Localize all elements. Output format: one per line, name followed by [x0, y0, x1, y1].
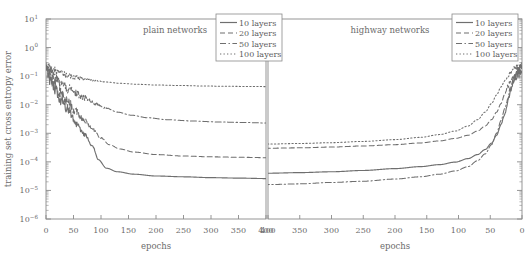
legend-right-label: 10 layers	[475, 19, 512, 28]
legend-left-label: 20 layers	[239, 29, 276, 38]
x-right-label: 200	[387, 226, 402, 235]
x-right-label: 250	[356, 226, 371, 235]
x-right-label: 150	[419, 226, 434, 235]
series-line-20-layers	[268, 65, 522, 148]
x-left-label: 200	[148, 226, 163, 235]
y-axis-label: training set cross entropy error	[3, 50, 13, 187]
x-left-label: 100	[93, 226, 108, 235]
y-tick-label: 10−1	[20, 71, 38, 81]
y-tick-label: 10−2	[20, 99, 39, 109]
y-tick-label: 10−6	[20, 214, 39, 224]
legend-left-label: 100 layers	[239, 50, 281, 59]
series-line-50-layers	[268, 63, 522, 184]
y-tick-label: 100	[24, 42, 38, 52]
chart-svg: 10110010−110−210−310−410−510−60501001502…	[0, 0, 531, 264]
figure-root: 10110010−110−210−310−410−510−60501001502…	[0, 0, 531, 264]
y-tick-label: 10−4	[20, 156, 39, 166]
x-right-label: 400	[260, 226, 275, 235]
y-tick-label: 10−3	[20, 128, 39, 138]
y-tick-label: 10−5	[20, 185, 39, 195]
panel-title-plain: plain networks	[143, 25, 207, 35]
series-line-100-layers	[46, 63, 266, 86]
x-right-label: 350	[292, 226, 307, 235]
x-left-label: 50	[68, 226, 78, 235]
legend-left-label: 50 layers	[239, 40, 276, 49]
x-right-label: 100	[451, 226, 466, 235]
panel-title-highway: highway networks	[351, 25, 430, 35]
x-right-label: 0	[519, 226, 524, 235]
legend-left-label: 10 layers	[239, 19, 276, 28]
x-left-label: 250	[176, 226, 191, 235]
series-line-10-layers	[46, 63, 266, 179]
legend-right-label: 50 layers	[475, 40, 512, 49]
x-right-label: 50	[485, 226, 495, 235]
series-line-100-layers	[268, 63, 522, 145]
legend-right-label: 100 layers	[475, 50, 517, 59]
x-left-label: 150	[121, 226, 136, 235]
x-axis-label-right: epochs	[380, 241, 410, 251]
x-left-label: 300	[203, 226, 218, 235]
y-tick-label: 101	[24, 14, 38, 24]
x-right-label: 300	[324, 226, 339, 235]
x-left-label: 350	[231, 226, 246, 235]
legend-right-label: 20 layers	[475, 29, 512, 38]
series-line-10-layers	[268, 68, 522, 173]
x-left-label: 0	[43, 226, 48, 235]
x-axis-label-left: epochs	[141, 241, 171, 251]
